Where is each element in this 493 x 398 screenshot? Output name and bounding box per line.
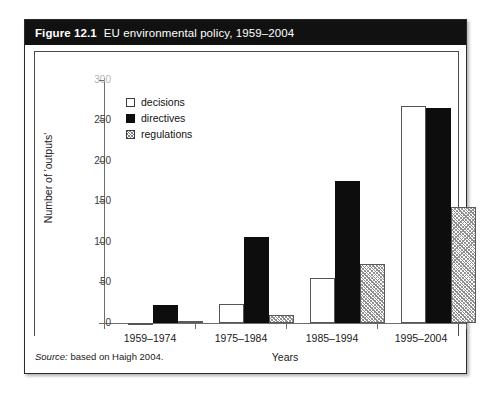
bar-decisions-1985-1994 [310,278,335,323]
x-tick-mark-0 [104,324,105,329]
bar-directives-1975-1984 [244,237,269,323]
x-tick-label-1995-2004: 1995–2004 [366,332,476,344]
bar-decisions-1995-2004 [401,106,426,323]
y-tick-mark-200 [99,161,104,162]
source-text: based on Haigh 2004. [70,351,163,362]
bar-chart: Number of 'outputs' 300 250 200 150 100 … [25,20,468,375]
y-tick-mark-50 [99,282,104,283]
bar-directives-1995-2004 [426,108,451,323]
figure-panel: Figure 12.1 EU environmental policy, 195… [24,19,467,374]
legend-swatch-regulations-icon [126,130,135,139]
x-tick-mark-3 [377,324,378,329]
source-note: Source: based on Haigh 2004. [35,351,163,362]
legend-item-decisions: decisions [126,95,192,109]
bar-regulations-1959-1974 [178,321,203,323]
x-tick-mark-1 [195,324,196,329]
legend-item-regulations: regulations [126,127,192,141]
legend-label-directives: directives [141,112,185,124]
x-axis-line [104,323,466,324]
y-tick-mark-150 [99,201,104,202]
bar-regulations-1985-1994 [360,264,385,323]
bar-decisions-1975-1984 [219,304,244,323]
legend-item-directives: directives [126,111,192,125]
y-tick-mark-100 [99,242,104,243]
legend-label-regulations: regulations [141,128,192,140]
legend-label-decisions: decisions [141,96,185,108]
x-tick-mark-2 [286,324,287,329]
y-tick-mark-250 [99,120,104,121]
chart-legend: decisions directives regulations [126,95,192,143]
y-tick-mark-300 [99,80,104,81]
bar-regulations-1975-1984 [269,315,294,323]
source-label: Source: [35,351,68,362]
legend-swatch-directives-icon [126,114,135,123]
bar-directives-1985-1994 [335,181,360,323]
y-axis-title: Number of 'outputs' [42,103,54,253]
legend-swatch-decisions-icon [126,98,135,107]
bar-decisions-1959-1974 [128,323,153,325]
bar-regulations-1995-2004 [451,207,476,323]
x-tick-mark-4 [466,324,467,329]
bar-directives-1959-1974 [153,305,178,323]
